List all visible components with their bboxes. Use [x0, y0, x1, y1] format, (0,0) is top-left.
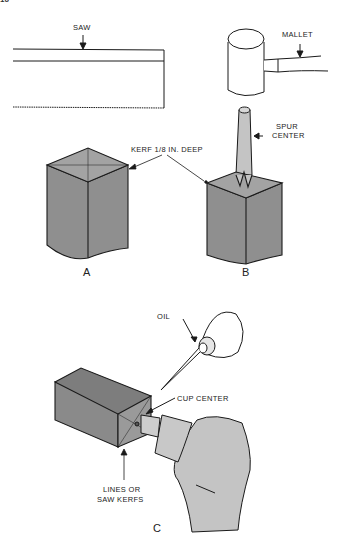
label-saw: SAW: [73, 23, 91, 32]
kerf-pointers: [129, 155, 207, 183]
label-oil: OIL: [157, 312, 170, 321]
saw-illustration: [13, 35, 164, 108]
mallet-illustration: [228, 29, 328, 96]
label-lines-1: LINES OR: [103, 485, 140, 494]
figure-label-a: A: [83, 266, 90, 278]
lathe-headstock: [135, 398, 250, 532]
label-cup-center: CUP CENTER: [177, 394, 229, 403]
diagram-canvas: [0, 0, 348, 545]
figure-label-c: C: [153, 522, 161, 534]
label-spur-center-2: CENTER: [272, 131, 305, 140]
label-lines-2: SAW KERFS: [97, 495, 144, 504]
figure-label-b: B: [242, 266, 249, 278]
block-b: [207, 172, 282, 264]
label-kerf: KERF 1/8 IN. DEEP: [131, 145, 203, 154]
spur-center-illustration: [236, 107, 263, 175]
lines-pointer: [121, 449, 127, 480]
block-a: [47, 148, 128, 259]
label-mallet: MALLET: [282, 30, 313, 39]
oil-can-illustration: [161, 312, 243, 390]
block-c: [55, 368, 151, 447]
label-spur-center-1: SPUR: [276, 122, 298, 131]
